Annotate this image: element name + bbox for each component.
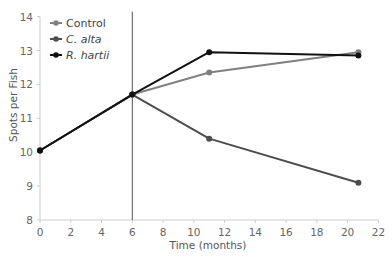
y-tick-label: 12 <box>20 78 33 90</box>
y-tick-label: 14 <box>20 11 34 23</box>
series-control <box>37 49 361 153</box>
legend-marker-c-alta <box>53 36 59 42</box>
legend-label-control: Control <box>66 17 106 30</box>
legend-marker-control <box>53 20 59 26</box>
data-point-r-hartii <box>206 49 212 55</box>
data-point-r-hartii <box>129 92 135 98</box>
legend-label-r-hartii: R. hartii <box>66 49 109 62</box>
legend-item-r-hartii: R. hartii <box>50 49 109 62</box>
x-axis-title: Time (months) <box>169 239 247 251</box>
series-group <box>37 49 361 186</box>
data-point-r-hartii <box>37 148 43 154</box>
y-tick-label: 10 <box>20 146 33 158</box>
x-tick-label: 18 <box>310 226 323 238</box>
x-tick-label: 22 <box>372 226 385 238</box>
series-c-alta <box>37 92 361 186</box>
x-tick-label: 8 <box>160 226 167 238</box>
x-tick-label: 4 <box>98 226 105 238</box>
legend-label-c-alta: C. alta <box>66 33 102 46</box>
x-tick-label: 14 <box>249 226 263 238</box>
x-tick-label: 16 <box>279 226 293 238</box>
legend-item-control: Control <box>50 17 106 30</box>
legend-marker-r-hartii <box>53 52 59 58</box>
y-tick-label: 8 <box>26 214 33 226</box>
data-point-r-hartii <box>355 53 361 59</box>
y-axis-title: Spots per Fish <box>7 68 19 142</box>
x-tick-label: 2 <box>67 226 74 238</box>
data-point-control <box>206 70 212 76</box>
x-tick-label: 6 <box>129 226 136 238</box>
x-tick-label: 12 <box>218 226 231 238</box>
series-line-c-alta <box>40 95 358 183</box>
y-tick-label: 11 <box>20 112 33 124</box>
legend: Control C. alta R. hartii <box>50 17 109 62</box>
x-tick-label: 20 <box>341 226 354 238</box>
data-point-c-alta <box>206 136 212 142</box>
legend-item-c-alta: C. alta <box>50 33 102 46</box>
y-tick-label: 13 <box>20 45 33 57</box>
data-point-c-alta <box>355 180 361 186</box>
line-chart: 0246810121416182022891011121314 Spots pe… <box>0 0 392 262</box>
x-tick-label: 10 <box>187 226 200 238</box>
series-line-r-hartii <box>40 52 358 150</box>
x-tick-label: 0 <box>37 226 44 238</box>
series-r-hartii <box>37 49 361 153</box>
y-tick-label: 9 <box>26 180 33 192</box>
series-line-control <box>40 52 358 150</box>
